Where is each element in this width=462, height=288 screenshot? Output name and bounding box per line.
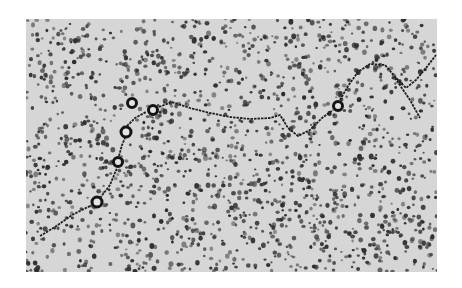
bead-particle — [114, 158, 123, 167]
dna-strand — [127, 112, 146, 126]
dna-strand — [159, 102, 333, 136]
micrograph-image — [26, 19, 437, 272]
bead-particle — [149, 106, 158, 115]
bead-particle — [92, 197, 102, 207]
dna-strand — [395, 78, 420, 118]
bead-particle — [121, 127, 131, 137]
dna-strand — [100, 168, 117, 198]
dna-strand — [119, 138, 125, 156]
dna-strand — [340, 55, 436, 100]
bead-particle — [128, 99, 137, 108]
dna-strand-with-beads — [26, 19, 437, 272]
dna-strand — [40, 206, 90, 236]
bead-particle — [334, 102, 343, 111]
